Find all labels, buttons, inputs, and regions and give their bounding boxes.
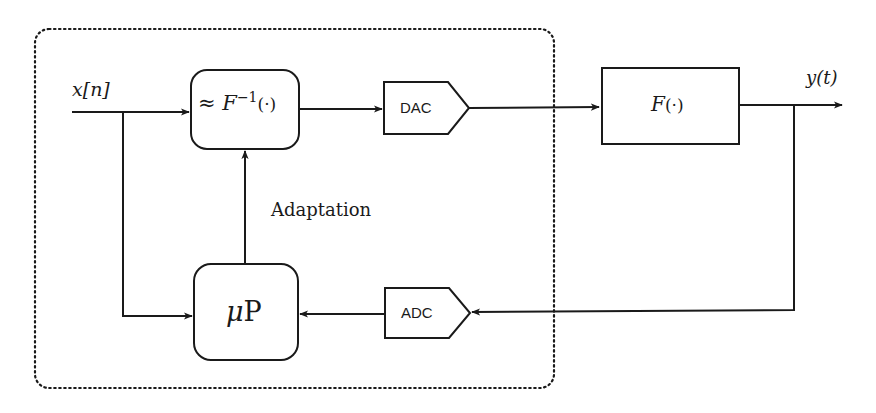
plant-func: F [651,92,665,116]
dac-to-plant-line [469,107,599,108]
predistorter-sup: −1 [237,89,258,105]
approx-symbol: ≈ [198,91,216,115]
processor-mu: μ [226,296,244,327]
adaptation-label: Adaptation [271,199,371,220]
processor-p: P [244,296,262,327]
predistorter-label: ≈ F−1(·) [198,89,276,115]
input-label: x[n] [72,78,110,100]
block-diagram [0,0,876,413]
input-branch-line [123,112,192,316]
output-label: y(t) [806,67,837,88]
processor-label: μP [226,296,262,327]
predistorter-arg: (·) [258,94,277,114]
adc-label: ADC [401,304,433,321]
plant-label: F(·) [651,92,684,116]
plant-arg: (·) [665,95,684,115]
dac-label: DAC [400,99,432,116]
predistorter-func: F [222,91,237,115]
